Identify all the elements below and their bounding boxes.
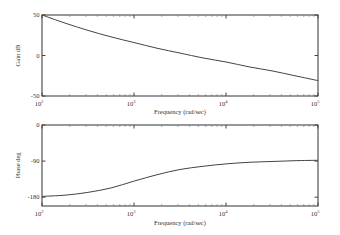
axes-frame — [42, 15, 318, 96]
x-tick-label-exponent: 4 — [225, 99, 228, 104]
y-tick-label: -90 — [31, 157, 40, 164]
y-tick-label: 0 — [36, 121, 39, 128]
x-axis-title: Frequency (rad/sec) — [154, 219, 206, 227]
y-tick-label: 50 — [33, 11, 40, 18]
series-line-phase — [42, 160, 318, 196]
x-axis-title: Frequency (rad/sec) — [154, 108, 206, 116]
x-tick-label-exponent: 2 — [41, 99, 43, 104]
x-tick-label: 103 — [127, 99, 137, 107]
x-tick-label: 105 — [311, 209, 321, 217]
x-tick-label-exponent: 5 — [317, 99, 320, 104]
y-tick-label: 0 — [36, 52, 39, 59]
x-tick-label-exponent: 4 — [225, 209, 228, 214]
x-tick-label: 104 — [219, 209, 229, 217]
y-axis-title: Phase deg — [14, 152, 21, 179]
x-tick-label-exponent: 3 — [133, 209, 136, 214]
x-tick-label: 105 — [311, 99, 321, 107]
x-tick-label: 104 — [219, 99, 229, 107]
x-tick-label: 103 — [127, 209, 137, 217]
y-axis-title: Gain dB — [14, 44, 21, 67]
y-tick-label: -180 — [28, 193, 40, 200]
axes-frame — [42, 125, 318, 206]
x-tick-label-exponent: 5 — [317, 209, 320, 214]
subplot-gain: 102103104105500-50Frequency (rad/sec)Gai… — [14, 11, 320, 116]
x-tick-label-exponent: 3 — [133, 99, 136, 104]
x-tick-label: 102 — [35, 209, 44, 217]
x-tick-label: 102 — [35, 99, 44, 107]
bode-plot: 102103104105500-50Frequency (rad/sec)Gai… — [0, 0, 340, 235]
x-tick-label-exponent: 2 — [41, 209, 43, 214]
series-line-gain — [42, 15, 318, 81]
subplot-phase: 1021031041050-90-180Frequency (rad/sec)P… — [14, 121, 320, 227]
y-tick-label: -50 — [31, 92, 40, 99]
